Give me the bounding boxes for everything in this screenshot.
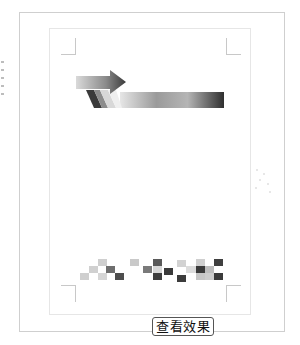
pixel-cell: [214, 259, 223, 266]
pixel-cell: [106, 266, 115, 273]
pixel-cell: [196, 259, 205, 266]
left-edge-marks: [0, 55, 6, 100]
crop-mark-bottom-left: [61, 285, 76, 302]
mark: [1, 69, 4, 71]
pixel-cell: [130, 259, 139, 266]
pixel-cell: [205, 273, 214, 280]
view-effect-button[interactable]: 查看效果: [152, 317, 214, 336]
pixel-cell: [98, 273, 107, 280]
crop-mark-top-right: [226, 38, 241, 55]
mark: [1, 85, 4, 87]
pixel-cell: [196, 266, 205, 273]
mark: [1, 61, 4, 63]
arrow-banner-graphic: [76, 70, 226, 110]
pixel-cell: [115, 273, 124, 280]
pixel-cell: [164, 268, 173, 275]
pixel-cell: [143, 266, 152, 273]
pixel-cell: [89, 266, 98, 273]
pixel-cell: [205, 266, 214, 273]
pixel-cell: [177, 275, 186, 282]
noise-speckle: [253, 165, 275, 195]
crop-mark-bottom-right: [226, 285, 241, 302]
pixel-cell: [177, 260, 186, 267]
crop-mark-top-left: [61, 38, 76, 55]
pixel-cell: [214, 273, 223, 280]
pixel-cell: [196, 273, 205, 280]
pixel-cell: [98, 259, 107, 266]
pixel-cell: [80, 273, 89, 280]
pixel-cell: [153, 259, 162, 266]
pixel-cell: [153, 266, 162, 273]
pixel-cell: [153, 273, 162, 280]
mark: [1, 77, 4, 79]
mark: [1, 93, 4, 95]
